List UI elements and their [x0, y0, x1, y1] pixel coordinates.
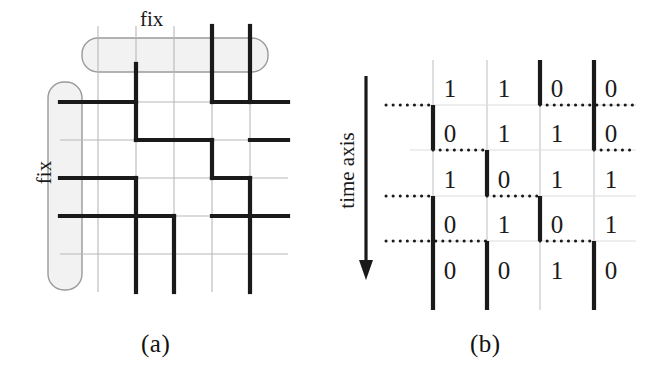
fix-label-left: fix: [32, 161, 57, 184]
binary-digit: 1: [544, 166, 570, 194]
fix-highlight-boxes: [48, 38, 268, 290]
arrow-head: [359, 260, 373, 280]
binary-digit: 1: [437, 75, 463, 103]
binary-digit: 0: [598, 120, 624, 148]
binary-digit: 0: [491, 166, 517, 194]
fix-box-top: [82, 38, 268, 72]
binary-digit: 1: [544, 257, 570, 285]
binary-digit: 1: [491, 211, 517, 239]
fix-label-top: fix: [140, 7, 163, 32]
binary-digit: 0: [491, 257, 517, 285]
binary-digit: 0: [598, 75, 624, 103]
binary-digit: 1: [598, 211, 624, 239]
binary-digit: 0: [544, 75, 570, 103]
binary-digit: 0: [437, 211, 463, 239]
panel-a-group: [48, 26, 288, 292]
binary-digit: 1: [544, 120, 570, 148]
binary-digit: 0: [437, 120, 463, 148]
binary-digit: 1: [598, 166, 624, 194]
binary-digit: 1: [491, 120, 517, 148]
caption-a: (a): [141, 330, 170, 358]
caption-b: (b): [470, 330, 501, 358]
fix-box-left: [48, 82, 82, 290]
binary-digit: 0: [544, 211, 570, 239]
binary-digit: 1: [491, 75, 517, 103]
time-axis-label: time axis: [335, 132, 360, 208]
binary-digit: 0: [437, 257, 463, 285]
binary-digit: 0: [598, 257, 624, 285]
binary-digit: 1: [437, 166, 463, 194]
figure-container: fix fix time axis 11000110101101010010 (…: [0, 0, 646, 383]
time-axis-arrow: [359, 76, 373, 280]
